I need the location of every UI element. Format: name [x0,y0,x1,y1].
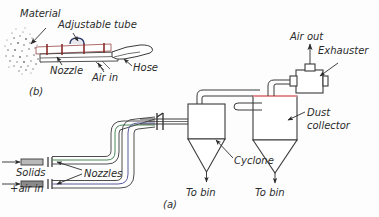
leader-nozzles-upper [57,162,82,170]
exhauster-housing [296,70,323,93]
label-nozzle: Nozzle [50,65,83,76]
label-air-in-a: +air in [10,183,44,194]
leader-nozzles-lower [57,174,82,184]
label-material: Material [20,8,61,19]
pipe-upper-outer-bottom [52,121,155,157]
leader-air-in-b [98,63,104,72]
exhauster-top-stub [305,64,315,71]
nozzle-union-lower [48,179,52,189]
inlet-nozzle-upper-body [21,159,43,165]
cyclone-barrel [188,104,225,139]
label-cyclone: Cyclone [234,155,274,166]
panel-b-group: Material Adjustable tube Nozzle Air in H… [4,8,158,97]
label-adjustable-tube: Adjustable tube [57,19,137,30]
exhauster-motor-stub [323,76,328,86]
pipe-upper-inner [52,125,155,160]
label-exhauster: Exhauster [318,45,369,56]
diagram-svg: Material Adjustable tube Nozzle Air in H… [0,0,379,217]
hose-body [112,45,153,59]
label-to-bin-collector: To bin [255,187,285,198]
exhauster-inlet-stub [290,76,297,86]
label-nozzles: Nozzles [84,168,122,179]
label-air-in-b: Air in [91,72,118,83]
label-to-bin-cyclone: To bin [186,187,216,198]
pipe-upper-outer-top [52,119,155,164]
caption-panel-b: (b) [29,86,43,97]
leader-material [31,28,46,44]
label-hose: Hose [133,62,158,73]
cyclone-gas-outlet-inner [197,90,260,104]
label-solids: Solids [16,167,46,178]
figure-container: Material Adjustable tube Nozzle Air in H… [0,0,379,217]
label-dust-collector-line1: Dust [307,107,331,118]
label-dust-collector-line2: collector [307,120,351,131]
collector-inlet-cap [234,103,238,110]
leader-hose [124,59,132,66]
air-in-feed-lines [96,61,110,70]
nozzle-union-upper [48,157,52,167]
caption-panel-a: (a) [163,199,177,210]
label-air-out: Air out [289,31,324,42]
